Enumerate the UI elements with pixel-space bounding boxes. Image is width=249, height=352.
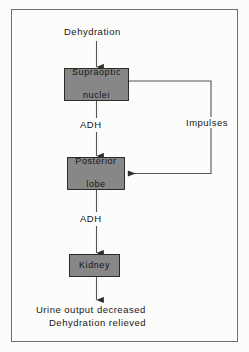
node-posterior-lobe-line2: lobe [68,179,124,191]
outcome-line-2: Dehydration relieved [49,317,146,328]
figure-canvas: Supraoptic nuclei Posterior lobe Kidney … [0,0,249,352]
node-posterior-lobe: Posterior lobe [67,157,125,190]
edge-label-adh-lower: ADH [80,213,102,224]
node-dehydration-label: Dehydration [64,26,121,37]
node-supraoptic-nuclei-line1: Supraoptic [65,67,128,79]
node-kidney-label: Kidney [70,260,119,272]
edge-label-impulses: Impulses [185,117,229,128]
node-kidney: Kidney [69,254,120,277]
outcome-line-1: Urine output decreased [36,304,146,315]
edge-label-adh-upper: ADH [80,119,102,130]
node-supraoptic-nuclei-line2: nuclei [65,90,128,102]
node-posterior-lobe-line1: Posterior [68,156,124,168]
node-supraoptic-nuclei: Supraoptic nuclei [64,68,129,101]
